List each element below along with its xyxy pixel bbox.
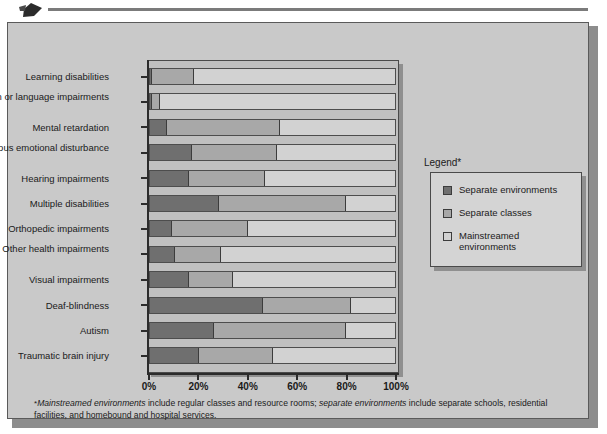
x-axis-tick [395,374,397,380]
bar-segment [189,272,233,287]
bar-segment [150,145,192,160]
stacked-bar [149,119,396,136]
y-axis-label: Traumatic brain injury [0,350,109,361]
y-axis-tick [141,152,148,154]
legend-item: Separate classes [443,207,572,218]
stacked-bar [149,195,396,212]
legend-swatch-icon [443,232,452,241]
x-axis-tick [296,374,298,380]
stacked-bar [149,93,396,110]
bar-segment [219,196,346,211]
y-axis-tick [141,228,148,230]
header-rule [48,8,588,11]
y-axis-tick [141,253,148,255]
stacked-bar [149,170,396,187]
x-axis-label: 80% [324,381,370,392]
legend-label: Separate classes [459,207,532,218]
y-axis-label: Other health impairments [0,243,109,254]
bar-segment [277,145,395,160]
bar-segment [351,298,395,313]
bar-row [149,220,396,237]
y-axis-tick [141,355,148,357]
stacked-bar [149,297,396,314]
y-axis-label: Mental retardation [0,122,109,133]
bar-segment [265,171,395,186]
bar-segment [194,69,395,84]
decorative-diamond-icon [18,2,44,22]
x-axis-line [147,373,399,375]
y-axis-label: Hearing impairments [0,173,109,184]
bar-segment [152,94,159,109]
bar-row [149,297,396,314]
footnote-text: separate environments [319,398,406,408]
y-axis-label: Deaf-blindness [0,300,109,311]
bar-segment [167,120,280,135]
x-axis-tick [247,374,249,380]
bar-segment [346,323,395,338]
y-axis-tick [141,177,148,179]
x-axis-label: 100% [373,381,419,392]
legend-title: Legend* [424,157,461,168]
stacked-bar [149,68,396,85]
y-axis-tick [141,101,148,103]
y-axis-label: Serious emotional disturbance [0,142,109,153]
bar-segment [150,272,189,287]
bar-segment [273,348,396,363]
bar-segment [150,171,189,186]
bar-segment [263,298,351,313]
y-axis-label: Visual impairments [0,274,109,285]
legend-swatch-icon [443,209,452,218]
y-axis-label: Autism [0,325,109,336]
bar-segment [248,221,395,236]
x-axis-tick [346,374,348,380]
bar-row [149,68,396,85]
bar-row [149,246,396,263]
footnote-text: Mainstreamed environments [37,398,145,408]
bar-row [149,195,396,212]
stacked-bar [149,271,396,288]
bar-row [149,322,396,339]
y-axis-tick [141,126,148,128]
x-axis-tick [148,374,150,380]
bar-segment [346,196,395,211]
x-axis-label: 0% [126,381,172,392]
y-axis-label: Learning disabilities [0,71,109,82]
x-axis-label: 60% [274,381,320,392]
figure-footnote: *Mainstreamed environments include regul… [34,398,574,421]
bar-segment [150,120,167,135]
footnote-text: include regular classes and resource roo… [146,398,319,408]
bar-segment [280,120,395,135]
bar-segment [233,272,395,287]
legend-label: Separate environments [459,184,557,195]
y-axis-tick [141,279,148,281]
bar-row [149,347,396,364]
x-axis-label: 40% [225,381,271,392]
y-axis-tick [141,76,148,78]
y-axis-tick [141,304,148,306]
stacked-bar [149,144,396,161]
legend-label: Mainstreamed environments [459,230,572,252]
bar-segment [221,247,395,262]
bar-segment [172,221,248,236]
y-axis-label: Speech or language impairments [0,91,109,102]
y-axis-tick [141,330,148,332]
legend-box: Separate environmentsSeparate classesMai… [430,172,582,267]
stacked-bar [149,347,396,364]
bar-row [149,144,396,161]
figure-panel: Learning disabilitiesSpeech or language … [7,22,589,419]
figure-page: Learning disabilitiesSpeech or language … [0,0,607,434]
bar-row [149,119,396,136]
bar-segment [152,69,194,84]
bar-segment [199,348,273,363]
bar-segment [214,323,346,338]
bar-row [149,93,396,110]
bar-segment [175,247,222,262]
stacked-bar [149,322,396,339]
bar-segment [192,145,278,160]
stacked-bar [149,246,396,263]
y-axis-tick [141,203,148,205]
stacked-bar [149,220,396,237]
bar-row [149,271,396,288]
bar-segment [160,94,395,109]
legend-swatch-icon [443,186,452,195]
